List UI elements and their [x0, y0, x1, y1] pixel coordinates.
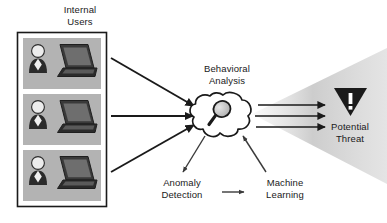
diagram-canvas: Internal Users Behavioral Analysis Anoma…	[0, 0, 387, 223]
potential-threat-label: Potential Threat	[316, 121, 384, 144]
user-card-2	[23, 94, 101, 145]
edge-ml-to-analysis	[243, 136, 266, 172]
edge-users-to-analysis	[111, 58, 194, 172]
anomaly-detection-label: Anomaly Detection	[145, 177, 219, 200]
behavioral-analysis-cloud	[190, 93, 251, 137]
behavioral-analysis-label: Behavioral Analysis	[183, 63, 271, 86]
edge-analysis-to-anomaly	[183, 136, 205, 172]
user-card-3	[23, 150, 101, 201]
machine-learning-label: Machine Learning	[247, 177, 323, 200]
internal-users-label: Internal Users	[34, 4, 126, 27]
user-card-1	[23, 38, 101, 89]
